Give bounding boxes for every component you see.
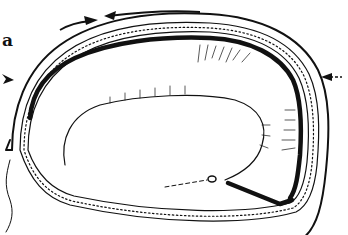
double-walled-band-outer	[20, 22, 319, 221]
left-trailing-filament	[6, 160, 12, 232]
diagram-figure: a	[0, 0, 348, 235]
radial-hatching	[110, 45, 295, 150]
bottom-probe-line	[228, 183, 292, 204]
arrow-right-pointing-left	[321, 73, 342, 81]
dashed-lead-line	[165, 180, 207, 187]
inner-cavity-outline	[64, 95, 264, 180]
probe-loop	[208, 176, 216, 182]
arrow-left-pointing-right	[2, 74, 14, 84]
diagram-drawing	[0, 0, 348, 235]
